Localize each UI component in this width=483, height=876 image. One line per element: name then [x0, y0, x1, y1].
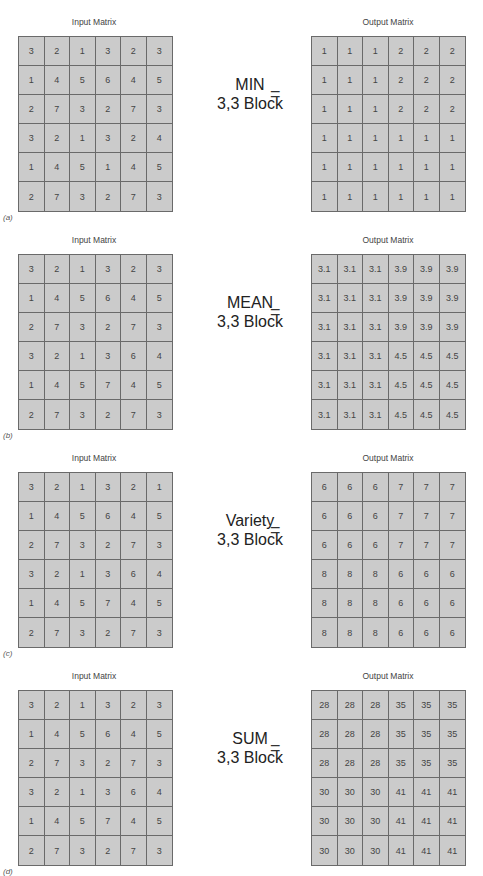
- output-matrix-grid: 3.13.13.13.93.93.93.13.13.13.93.93.93.13…: [311, 254, 466, 430]
- input-cell: 4: [45, 284, 71, 313]
- input-cell: 1: [19, 720, 45, 749]
- input-matrix-title: Input Matrix: [14, 235, 174, 245]
- input-cell: 1: [70, 560, 96, 589]
- panel-mean: Input MatrixOutput Matrix321323145645273…: [0, 218, 483, 436]
- input-cell: 3: [70, 182, 96, 211]
- output-cell: 30: [312, 807, 338, 836]
- output-cell: 1: [440, 124, 466, 153]
- input-cell: 4: [147, 560, 173, 589]
- input-cell: 1: [70, 124, 96, 153]
- input-cell: 2: [121, 37, 147, 66]
- output-matrix-title: Output Matrix: [308, 671, 468, 681]
- input-cell: 4: [121, 66, 147, 95]
- input-cell: 1: [70, 691, 96, 720]
- input-cell: 3: [96, 255, 122, 284]
- input-cell: 3: [19, 342, 45, 371]
- output-matrix-title: Output Matrix: [308, 235, 468, 245]
- output-cell: 3.1: [363, 342, 389, 371]
- input-matrix-grid: 321323145645273273321324145145273273: [18, 36, 173, 212]
- input-cell: 6: [96, 66, 122, 95]
- input-cell: 2: [96, 618, 122, 647]
- input-cell: 3: [70, 836, 96, 865]
- input-cell: 3: [147, 182, 173, 211]
- input-cell: 5: [147, 371, 173, 400]
- output-cell: 6: [389, 589, 415, 618]
- output-cell: 3.9: [389, 284, 415, 313]
- output-cell: 1: [440, 182, 466, 211]
- input-cell: 3: [70, 618, 96, 647]
- input-cell: 2: [45, 37, 71, 66]
- input-cell: 1: [70, 255, 96, 284]
- input-cell: 2: [96, 95, 122, 124]
- input-cell: 3: [96, 37, 122, 66]
- output-cell: 6: [338, 502, 364, 531]
- input-cell: 3: [70, 95, 96, 124]
- output-cell: 35: [389, 691, 415, 720]
- output-matrix-title: Output Matrix: [308, 453, 468, 463]
- operation-label: MEAN3,3 Block: [200, 293, 300, 331]
- input-cell: 3: [19, 560, 45, 589]
- output-cell: 28: [312, 749, 338, 778]
- output-cell: 7: [440, 473, 466, 502]
- input-cell: 3: [147, 37, 173, 66]
- input-cell: 6: [121, 342, 147, 371]
- output-cell: 6: [389, 618, 415, 647]
- output-cell: 35: [440, 691, 466, 720]
- input-cell: 3: [96, 778, 122, 807]
- output-cell: 4.5: [389, 371, 415, 400]
- output-cell: 1: [338, 66, 364, 95]
- input-matrix-grid: 321323145645273273321364145745273273: [18, 690, 173, 866]
- output-cell: 28: [312, 720, 338, 749]
- output-cell: 28: [338, 749, 364, 778]
- output-cell: 1: [414, 124, 440, 153]
- input-cell: 5: [147, 284, 173, 313]
- output-cell: 6: [414, 618, 440, 647]
- input-cell: 5: [70, 589, 96, 618]
- output-cell: 8: [363, 560, 389, 589]
- operation-name: Variety: [200, 511, 300, 530]
- operation-name: SUM: [200, 729, 300, 748]
- output-cell: 1: [312, 66, 338, 95]
- input-cell: 4: [121, 589, 147, 618]
- panel-min: Input MatrixOutput Matrix321323145645273…: [0, 0, 483, 218]
- output-cell: 3.9: [440, 284, 466, 313]
- input-cell: 2: [45, 124, 71, 153]
- output-cell: 3.1: [363, 400, 389, 429]
- input-cell: 5: [70, 502, 96, 531]
- equals-sign: =: [270, 520, 281, 541]
- output-cell: 2: [414, 37, 440, 66]
- output-cell: 3.9: [414, 255, 440, 284]
- output-cell: 6: [440, 560, 466, 589]
- equals-sign: =: [270, 84, 281, 105]
- input-cell: 5: [70, 807, 96, 836]
- input-cell: 7: [121, 313, 147, 342]
- input-cell: 6: [121, 778, 147, 807]
- input-cell: 2: [19, 313, 45, 342]
- input-cell: 7: [96, 589, 122, 618]
- panel-tag: (d): [3, 867, 13, 876]
- operation-label: SUM3,3 Block: [200, 729, 300, 767]
- output-cell: 41: [414, 778, 440, 807]
- input-cell: 2: [121, 124, 147, 153]
- output-cell: 8: [363, 618, 389, 647]
- output-matrix-grid: 111222111222111222111111111111111111: [311, 36, 466, 212]
- input-cell: 2: [45, 473, 71, 502]
- input-matrix-title: Input Matrix: [14, 453, 174, 463]
- input-cell: 2: [121, 691, 147, 720]
- input-cell: 1: [19, 807, 45, 836]
- input-cell: 3: [19, 691, 45, 720]
- output-cell: 3.1: [363, 313, 389, 342]
- output-cell: 3.9: [440, 255, 466, 284]
- input-cell: 2: [19, 836, 45, 865]
- output-cell: 3.1: [363, 255, 389, 284]
- input-cell: 2: [45, 342, 71, 371]
- input-cell: 2: [45, 691, 71, 720]
- output-cell: 1: [389, 182, 415, 211]
- input-cell: 3: [19, 37, 45, 66]
- input-cell: 2: [96, 836, 122, 865]
- input-cell: 7: [45, 95, 71, 124]
- operation-name: MEAN: [200, 293, 300, 312]
- output-matrix-grid: 2828283535352828283535352828283535353030…: [311, 690, 466, 866]
- input-cell: 4: [121, 371, 147, 400]
- output-cell: 8: [338, 560, 364, 589]
